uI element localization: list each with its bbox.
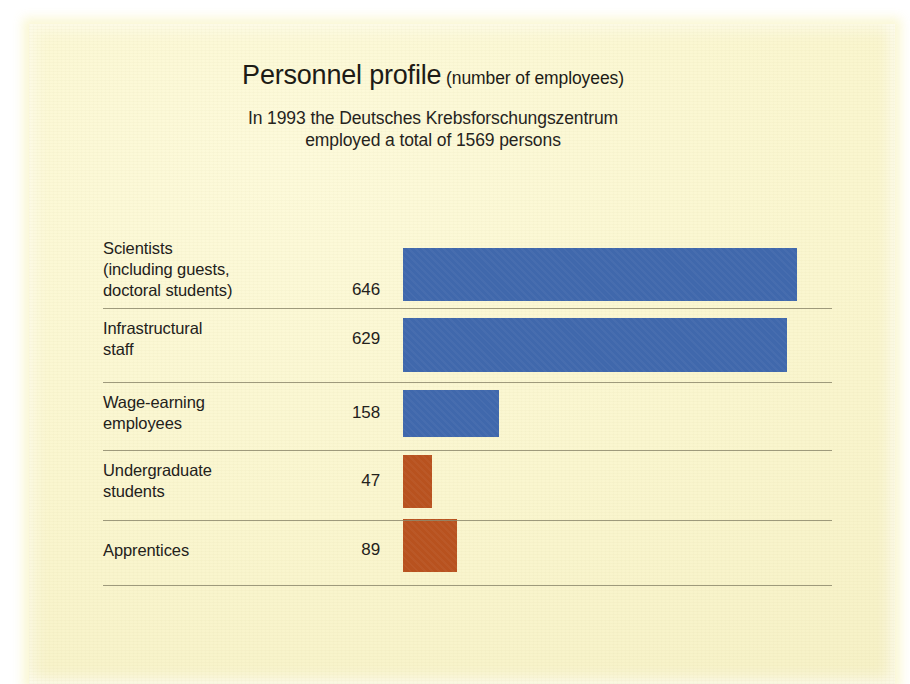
chart-row: Wage-earning employees 158 xyxy=(103,386,832,450)
bar-infrastructural-staff xyxy=(403,318,787,372)
row-label: Apprentices xyxy=(103,540,325,561)
row-label: Wage-earning employees xyxy=(103,392,325,434)
row-value: 629 xyxy=(331,329,380,349)
chart-row: Scientists (including guests, doctoral s… xyxy=(103,238,832,308)
chart-row: Undergraduate students 47 xyxy=(103,454,832,520)
row-separator xyxy=(103,382,832,383)
row-value: 47 xyxy=(331,471,380,491)
row-label: Infrastructural staff xyxy=(103,318,325,360)
row-label: Scientists (including guests, doctoral s… xyxy=(103,238,325,301)
row-value: 89 xyxy=(331,540,380,560)
bar-undergraduate-students xyxy=(403,455,432,508)
chart-row: Apprentices 89 xyxy=(103,524,832,585)
bar-wage-earning-employees xyxy=(403,390,499,437)
bar-apprentices xyxy=(403,519,457,572)
row-separator xyxy=(103,450,832,451)
row-value: 158 xyxy=(331,403,380,423)
row-separator xyxy=(103,520,832,521)
chart-row: Infrastructural staff 629 xyxy=(103,312,832,382)
row-separator xyxy=(103,585,832,586)
bar-scientists xyxy=(403,248,797,301)
row-value: 646 xyxy=(331,280,380,300)
row-separator xyxy=(103,308,832,309)
row-label: Undergraduate students xyxy=(103,460,325,502)
